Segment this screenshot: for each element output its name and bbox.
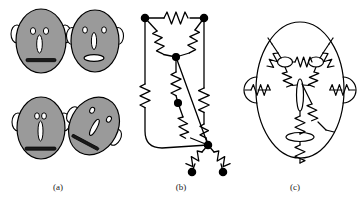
face-3-eye-right (42, 113, 47, 119)
face-2-eye-left (83, 27, 88, 33)
panel-b-resistor-network (126, 0, 238, 180)
right-eye-to-nose-resistor (303, 67, 319, 87)
face-3-eye-left (35, 113, 40, 119)
face-1-eye-right (43, 28, 48, 35)
edge-top-horizontal-resistor (145, 12, 204, 24)
edge-center-vertical-resistor (171, 57, 181, 103)
figure-container: (a) (b) (c) (0, 0, 362, 206)
face-3 (12, 97, 70, 159)
caption-b: (b) (166, 182, 196, 192)
node-mid-center (175, 100, 182, 107)
face-3-mouth (25, 147, 56, 150)
left-eye-loop (278, 57, 293, 67)
nose-to-mouth-resistor (295, 111, 305, 134)
node-bottom-left-terminal (188, 168, 195, 175)
cheek-resistor (302, 84, 334, 132)
eye-bridge-resistor (293, 57, 313, 67)
node-upper-center (173, 54, 180, 61)
node-bottom-right-terminal (219, 168, 226, 175)
edge-bottom-left-resistor (186, 145, 208, 172)
face-1-mouth (26, 59, 56, 62)
edge-bottom-right-resistor (208, 145, 230, 172)
face-1-eye-left (30, 28, 35, 35)
caption-row: (a) (b) (c) (0, 180, 362, 206)
face-1-nose (37, 35, 43, 53)
mouth-to-chin-resistor (295, 142, 305, 164)
left-eye-to-nose-resistor (282, 67, 297, 87)
panel-c-face-shaped-circuit (238, 0, 362, 180)
edge-right-vertical-resistor (199, 18, 210, 145)
face-2-mouth (84, 55, 104, 62)
face-2-eye-right (102, 27, 107, 33)
caption-c: (c) (280, 182, 310, 192)
face-2-nose (91, 33, 96, 50)
face-2 (67, 10, 124, 72)
node-bottom-junction (204, 141, 211, 148)
node-top-right (200, 14, 207, 21)
face-1 (11, 9, 71, 73)
face-3-nose (38, 121, 43, 141)
node-top-left (141, 14, 148, 21)
caption-a: (a) (43, 182, 73, 192)
panel-a-cartoon-faces (0, 0, 126, 180)
